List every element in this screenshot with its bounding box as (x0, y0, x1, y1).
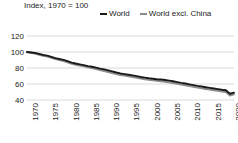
x-tick-label: 2020 (234, 103, 238, 121)
x-tick-label: 1995 (132, 103, 141, 121)
x-tick-label: 2000 (153, 103, 162, 121)
x-tick-label: 2015 (214, 103, 223, 121)
x-tick-label: 1990 (112, 103, 121, 121)
x-tick-label: 1975 (51, 103, 60, 121)
x-tick-label: 2010 (193, 103, 202, 121)
x-tick-label: 1970 (31, 103, 40, 121)
x-tick-label: 2005 (173, 103, 182, 121)
x-tick-label: 1985 (92, 103, 101, 121)
x-tick-label: 1980 (72, 103, 81, 121)
chart-container: Index, 1970 = 100 World World excl. Chin… (0, 0, 238, 143)
chart-x-axis-ticks: 1970197519801985199019952000200520102015… (0, 0, 238, 143)
